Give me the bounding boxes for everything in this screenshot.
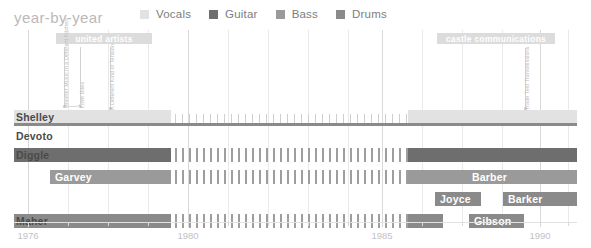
axis-tick-minor	[462, 222, 463, 226]
axis-tick-label: 1976	[17, 230, 38, 241]
axis-tick-minor	[108, 222, 109, 226]
plot-area: united artistscastle communications Anot…	[0, 30, 591, 222]
member-name-label: Shelley	[16, 112, 54, 123]
page-title: year-by-year	[14, 9, 103, 26]
legend-item-drums[interactable]: Drums	[336, 8, 387, 20]
legend-swatch-icon	[336, 10, 345, 19]
legend-item-label: Bass	[292, 8, 318, 20]
chart-header: year-by-year VocalsGuitarBassDrums	[0, 0, 591, 30]
axis-tick-major	[28, 222, 29, 227]
axis-tick-minor	[422, 222, 423, 226]
legend-item-label: Drums	[352, 8, 387, 20]
axis-tick-label: 1990	[529, 230, 550, 241]
legend-swatch-icon	[140, 10, 149, 19]
member-name-label: Barker	[508, 194, 542, 205]
legend-item-label: Vocals	[156, 8, 191, 20]
axis-tick-label: 1985	[371, 230, 392, 241]
member-row[interactable]: Diggle	[0, 148, 591, 162]
axis-tick-minor	[568, 222, 569, 226]
axis-tick-major	[540, 222, 541, 227]
legend-item-bass[interactable]: Bass	[276, 8, 318, 20]
axis-tick-minor	[502, 222, 503, 226]
legend-swatch-icon	[209, 10, 218, 19]
member-row[interactable]: Shelley	[0, 110, 591, 123]
axis-tick-minor	[228, 222, 229, 226]
axis-tick-minor	[308, 222, 309, 226]
axis-tick-label: 1980	[177, 230, 198, 241]
legend-item-guitar[interactable]: Guitar	[209, 8, 258, 20]
axis-line	[14, 222, 577, 223]
activity-segment	[408, 110, 577, 123]
axis-tick-minor	[148, 222, 149, 226]
member-row[interactable]: Barber	[0, 170, 591, 184]
axis-tick-minor	[268, 222, 269, 226]
member-name-label: Barber	[472, 172, 507, 183]
member-name-label: Devoto	[16, 131, 53, 142]
activity-segment-intermittent	[175, 114, 408, 123]
member-name-label: Diggle	[16, 150, 49, 161]
activity-segment-intermittent	[175, 148, 408, 162]
year-by-year-timeline-chart: year-by-year VocalsGuitarBassDrums unite…	[0, 0, 591, 248]
member-row[interactable]: Devoto	[0, 129, 591, 142]
member-rows: ShelleyDevotoDiggleGarveyBarberJoyceBark…	[0, 30, 591, 222]
activity-segment	[408, 148, 577, 162]
legend-item-vocals[interactable]: Vocals	[140, 8, 191, 20]
legend: VocalsGuitarBassDrums	[140, 8, 405, 20]
row-underline	[14, 123, 577, 126]
member-row[interactable]: Barker	[0, 192, 591, 206]
legend-item-label: Guitar	[225, 8, 258, 20]
legend-swatch-icon	[276, 10, 285, 19]
axis-tick-minor	[68, 222, 69, 226]
x-axis: 1976198019851990	[0, 222, 591, 248]
axis-tick-major	[382, 222, 383, 227]
axis-tick-minor	[348, 222, 349, 226]
axis-tick-major	[188, 222, 189, 227]
